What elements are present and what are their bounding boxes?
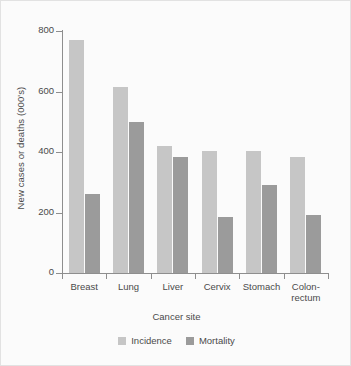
- x-category-label: Stomach: [239, 281, 283, 292]
- legend-item-incidence[interactable]: Incidence: [118, 335, 172, 346]
- legend-label: Incidence: [131, 335, 172, 346]
- x-category-label: Cervix: [195, 281, 239, 292]
- y-tick-label: 400: [10, 145, 54, 156]
- x-category-label-line1: Colon-: [284, 281, 328, 292]
- x-category-label-line1: Breast: [62, 281, 106, 292]
- x-tick-mark: [328, 274, 329, 279]
- x-tick-mark: [62, 274, 63, 279]
- y-tick-label: 0: [10, 266, 54, 277]
- x-category-label-line1: Lung: [106, 281, 150, 292]
- bar-mortality-5: [306, 215, 321, 273]
- bar-mortality-3: [218, 217, 233, 273]
- chart-figure: New cases or deaths (000's) 020040060080…: [0, 0, 351, 366]
- y-tick-label: 200: [10, 206, 54, 217]
- legend-swatch-icon: [118, 337, 126, 345]
- x-tick-mark: [106, 274, 107, 279]
- legend-label: Mortality: [199, 335, 235, 346]
- bar-incidence-0: [69, 40, 84, 273]
- bar-mortality-1: [129, 122, 144, 273]
- x-tick-mark: [195, 274, 196, 279]
- x-category-label-line1: Liver: [151, 281, 195, 292]
- y-tick-label: 800: [10, 24, 54, 35]
- legend-item-mortality[interactable]: Mortality: [186, 335, 235, 346]
- x-category-label: Breast: [62, 281, 106, 292]
- bar-incidence-4: [246, 151, 261, 274]
- bar-mortality-0: [85, 194, 100, 273]
- x-category-label: Colon-rectum: [284, 281, 328, 303]
- bar-incidence-3: [202, 151, 217, 274]
- bar-incidence-2: [157, 146, 172, 273]
- chart-legend: IncidenceMortality: [1, 335, 351, 346]
- legend-swatch-icon: [186, 337, 194, 345]
- bar-incidence-1: [113, 87, 128, 273]
- x-axis-title: Cancer site: [1, 311, 351, 322]
- x-category-label: Lung: [106, 281, 150, 292]
- x-tick-mark: [239, 274, 240, 279]
- x-category-label-line2: rectum: [284, 292, 328, 303]
- x-category-label-line1: Cervix: [195, 281, 239, 292]
- x-tick-mark: [284, 274, 285, 279]
- plot-area: [62, 31, 328, 273]
- x-tick-mark: [151, 274, 152, 279]
- x-category-label: Liver: [151, 281, 195, 292]
- bar-mortality-4: [262, 185, 277, 273]
- y-tick-label: 600: [10, 85, 54, 96]
- bar-mortality-2: [173, 157, 188, 273]
- x-category-label-line1: Stomach: [239, 281, 283, 292]
- bar-incidence-5: [290, 157, 305, 273]
